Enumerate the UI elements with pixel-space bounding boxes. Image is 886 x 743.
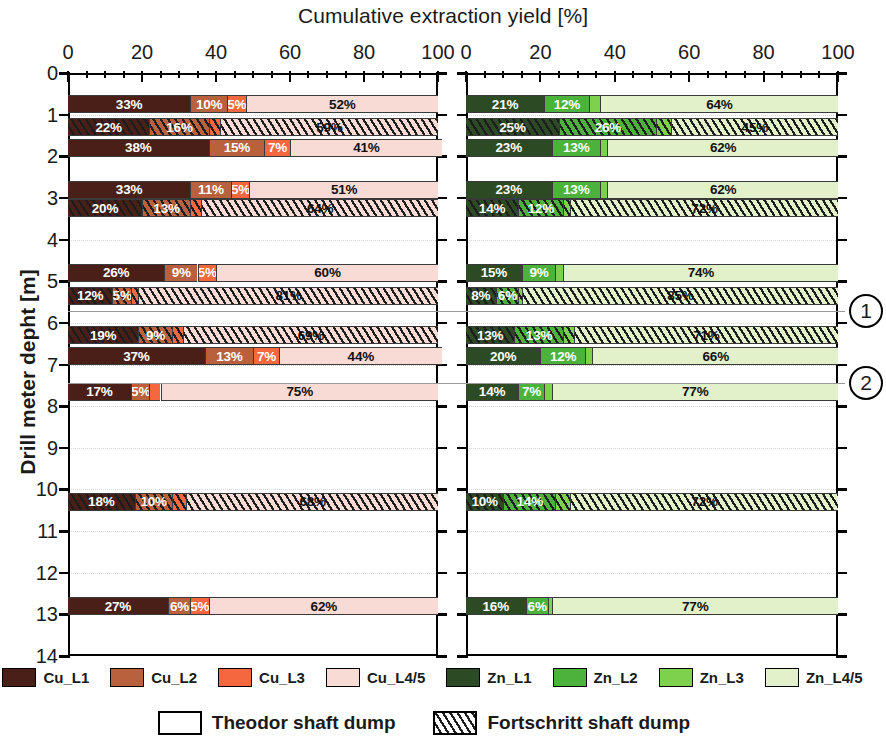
bar-segment: 12% [68,287,112,305]
y-tick-right [436,530,447,533]
bar-segment: 62% [607,139,838,157]
bar-row: 16%6%77% [466,597,838,615]
bar-segment: 13% [142,199,190,217]
bar-segment-label: 20% [466,348,540,364]
bar-segment: 20% [68,199,142,217]
y-tick-left [59,572,70,575]
bar-segment-label: 6% [169,598,190,614]
y-tick-left [457,72,468,75]
bar-segment-label: 8% [466,288,496,304]
x-tick-minor [725,71,727,78]
bar-segment: 64% [201,199,438,217]
legend-label: Zn_L3 [700,669,744,686]
bar-segment: 26% [68,264,164,282]
y-tick-left [59,114,70,117]
bar-segment: 71% [574,326,838,344]
chart-canvas: Cumulative extraction yield [%] Drill me… [0,0,886,743]
bar-segment: 16% [466,597,526,615]
bar-segment-label: 72% [571,494,838,510]
y-tick-right [436,72,447,75]
bar-segment-label: 15% [466,265,522,281]
x-tick-minor [178,71,180,78]
y-tick-right [836,655,847,658]
bar-row: 10%14%72% [466,493,838,511]
bar-segment: 9% [522,264,555,282]
legend-dump-item: Theodor shaft dump [158,711,434,735]
bar-segment: 6% [168,597,190,615]
bar-segment: 9% [164,264,197,282]
bar-segment-label: 22% [68,119,149,135]
bar-segment-label: 59% [221,119,438,135]
bar-row: 22%16%59% [68,118,438,136]
x-tick-major [289,71,291,82]
bar-row: 37%13%7%44% [68,347,438,365]
x-tick-minor [104,71,106,78]
bar-row: 18%10%68% [68,493,438,511]
bar-segment: 44% [279,347,442,365]
x-tick-minor [800,71,802,78]
bar-segment-label: 9% [139,327,171,343]
bar-segment: 5% [112,287,131,305]
x-tick-minor [670,71,672,78]
bar-segment: 33% [68,181,190,199]
x-tick-minor [744,71,746,78]
y-tick-label: 12 [24,563,58,583]
gridline [466,323,838,324]
y-tick-left [457,530,468,533]
legend-label: Cu_L2 [151,669,197,686]
bar-segment-label: 5% [228,96,246,112]
gridline [466,489,838,490]
bar-row: 25%26%45% [466,118,838,136]
bar-segment: 69% [183,326,438,344]
bar-segment [131,287,138,305]
x-tick-label: 20 [510,41,570,64]
y-tick-right [436,655,447,658]
bar-segment-label: 62% [608,182,838,198]
bar-segment: 6% [526,597,548,615]
bar-segment-label: 62% [210,598,438,614]
y-tick-right [836,114,847,117]
y-tick-label: 0 [24,63,58,83]
bar-row: 15%9%74% [466,264,838,282]
bar-segment-label: 14% [466,384,518,400]
bar-segment [209,118,220,136]
legend-swatch [659,668,693,687]
x-tick-minor [160,71,162,78]
bar-segment [555,264,562,282]
legend-label: Zn_L4/5 [806,669,863,686]
gridline [68,240,438,241]
bar-segment: 72% [570,199,838,217]
bar-segment: 14% [466,383,518,401]
x-tick-minor [345,71,347,78]
bar-segment: 85% [522,287,838,305]
x-tick-minor [595,71,597,78]
bar-segment: 13% [552,139,600,157]
gridline [466,115,838,116]
gridline [68,489,438,490]
legend-swatch [218,668,252,687]
x-tick-label: 0 [436,41,496,64]
bar-row: 14%12%72% [466,199,838,217]
x-tick-label: 80 [334,41,394,64]
bar-segment: 12% [518,199,563,217]
bar-segment [656,118,671,136]
bar-segment-label: 10% [466,494,503,510]
legend-label: Zn_L1 [487,669,531,686]
panel-zn: 020406080100 21%12%64%25%26%45%23%13%62%… [466,73,838,656]
bar-segment: 64% [600,95,838,113]
y-tick-left [59,322,70,325]
bar-segment-label: 6% [497,288,518,304]
bar-segment [589,95,600,113]
bar-segment [555,493,570,511]
bar-segment-label: 26% [560,119,656,135]
bar-segment-label: 7% [254,348,279,364]
y-tick-left [59,447,70,450]
x-tick-minor [197,71,199,78]
y-tick-right [836,530,847,533]
bar-segment-label: 20% [68,200,142,216]
bar-segment-label: 81% [139,288,438,304]
bar-row: 38%15%7%41% [68,139,438,157]
bar-segment [600,181,607,199]
gridline [68,115,438,116]
bar-segment: 15% [209,139,265,157]
